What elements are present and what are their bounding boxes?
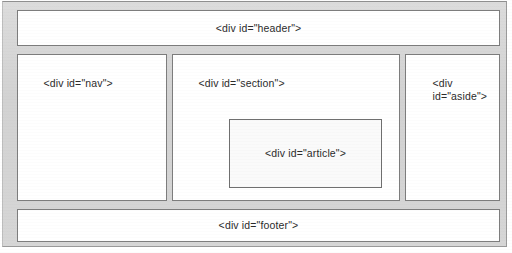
diagram-canvas: <div id="header"> <div id="nav"> <div id…	[0, 0, 512, 253]
nav-div-box: <div id="nav">	[17, 54, 167, 201]
article-div-box: <div id="article">	[229, 119, 382, 188]
aside-div-box: <div id="aside">	[405, 54, 500, 201]
section-div-box: <div id="section"> <div id="article">	[172, 54, 400, 201]
footer-div-label: <div id="footer">	[219, 219, 299, 232]
outer-frame: <div id="header"> <div id="nav"> <div id…	[2, 1, 507, 247]
header-div-box: <div id="header">	[17, 10, 500, 46]
aside-div-label: <div id="aside">	[432, 77, 487, 103]
header-div-label: <div id="header">	[216, 22, 302, 35]
article-div-label: <div id="article">	[265, 147, 346, 160]
nav-div-label: <div id="nav">	[43, 77, 112, 90]
section-div-label: <div id="section">	[198, 77, 284, 90]
footer-div-box: <div id="footer">	[17, 209, 500, 242]
